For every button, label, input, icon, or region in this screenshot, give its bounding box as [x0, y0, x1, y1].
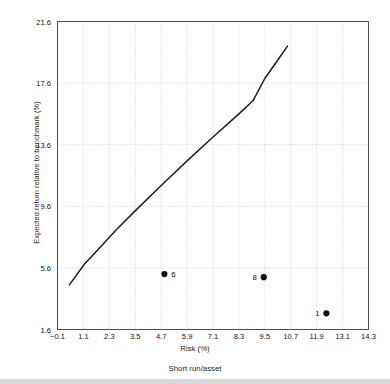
- scatter-point-label: 1: [315, 309, 319, 318]
- frontier-polyline: [69, 46, 287, 285]
- bottom-bar: [0, 379, 390, 384]
- scatter-point-label: 8: [253, 273, 257, 282]
- x-axis-title: Risk (%): [0, 344, 390, 353]
- scatter-point: [161, 271, 167, 277]
- grid-lines: [58, 22, 369, 330]
- frontier-line: [69, 46, 287, 285]
- chart-figure: Expected return relative to benchmark (%…: [0, 0, 390, 384]
- scatter-point-label: 6: [171, 270, 175, 279]
- scatter-points: [161, 271, 329, 316]
- figure-caption: Short run/asset: [0, 364, 390, 373]
- scatter-point: [323, 310, 329, 316]
- scatter-point: [261, 274, 267, 280]
- plot-area: [0, 0, 390, 384]
